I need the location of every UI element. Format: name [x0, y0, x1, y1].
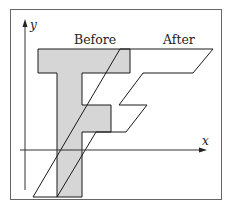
x-axis-label: x	[202, 134, 209, 148]
before-label: Before	[74, 32, 116, 47]
after-label: After	[162, 32, 195, 47]
y-axis-label: y	[29, 18, 37, 32]
shear-transformation-diagram: y x Before After	[0, 0, 234, 208]
